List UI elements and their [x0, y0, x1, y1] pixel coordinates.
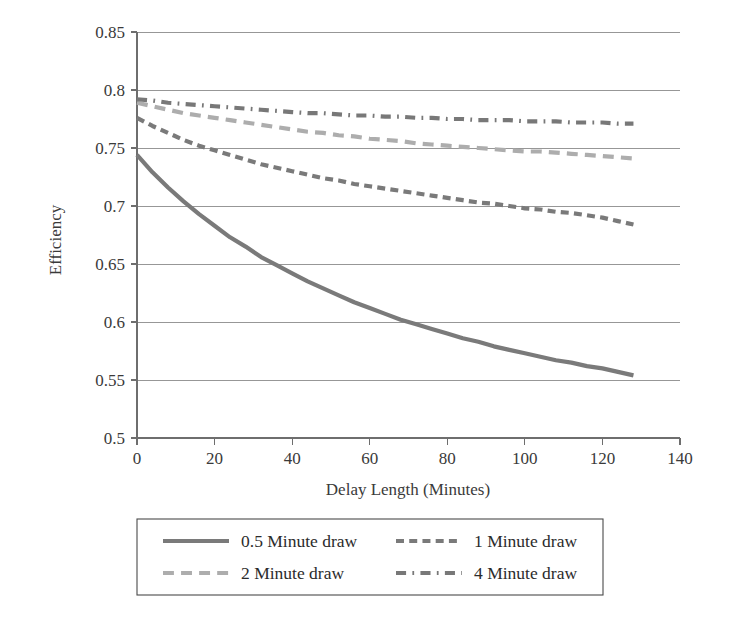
y-tick-label: 0.5 [104, 429, 125, 448]
x-tick-label: 120 [590, 449, 616, 468]
chart-figure: 0.50.550.60.650.70.750.80.85 02040608010… [0, 0, 739, 619]
x-tick-label: 80 [439, 449, 456, 468]
y-tick-label: 0.6 [104, 313, 125, 332]
y-tick-label: 0.85 [95, 23, 125, 42]
y-tick-label: 0.65 [95, 255, 125, 274]
y-tick-label: 0.7 [104, 197, 126, 216]
x-tick-label: 60 [361, 449, 378, 468]
efficiency-line-chart: 0.50.550.60.650.70.750.80.85 02040608010… [0, 0, 739, 619]
y-tick-label: 0.8 [104, 81, 125, 100]
legend-label-1: 1 Minute draw [474, 531, 577, 551]
x-axis-title: Delay Length (Minutes) [326, 480, 490, 499]
x-tick-label: 100 [512, 449, 538, 468]
legend-label-2: 2 Minute draw [241, 563, 344, 583]
x-tick-label: 40 [284, 449, 301, 468]
x-tick-label: 20 [206, 449, 223, 468]
legend-label-3: 4 Minute draw [474, 563, 577, 583]
x-tick-label: 140 [667, 449, 693, 468]
y-tick-label: 0.75 [95, 139, 125, 158]
y-tick-label: 0.55 [95, 371, 125, 390]
y-axis-title: Efficiency [46, 204, 65, 275]
legend-label-0: 0.5 Minute draw [241, 531, 358, 551]
x-tick-label: 0 [133, 449, 142, 468]
